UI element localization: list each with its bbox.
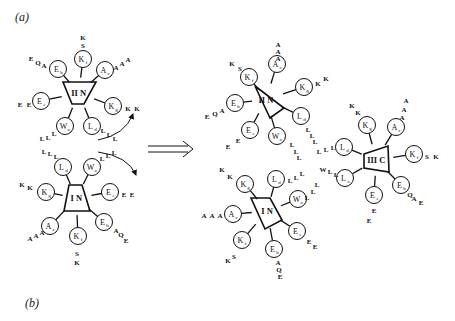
residue-label: K (74, 259, 80, 267)
residue-label: A (411, 195, 416, 203)
residue-label: K (219, 166, 225, 174)
svg-text:K: K (109, 102, 115, 111)
svg-text:E: E (397, 181, 402, 190)
residue-label: L (113, 135, 118, 143)
svg-text:E: E (54, 65, 59, 74)
svg-text:A: A (101, 66, 107, 75)
residue-label: L (40, 135, 45, 143)
subunit-node: Ld (293, 108, 310, 125)
residue-label: A (119, 60, 124, 68)
residue-label: K (19, 181, 25, 189)
residue-label: L (317, 148, 322, 156)
svg-text:A: A (46, 222, 52, 231)
subunit-node: La (337, 170, 354, 187)
svg-text:K: K (79, 55, 85, 64)
residue-label: A (217, 212, 222, 220)
subunit-node: Kf (406, 146, 423, 163)
complex-right-IN: KgKKLdLLLWaLLLAcAAAEeEEKfSKEbAQEI N (201, 166, 319, 281)
residue-label: L (54, 153, 59, 161)
complex-label: III C (367, 155, 385, 165)
svg-text:E: E (370, 191, 375, 200)
residue-label: E (419, 199, 424, 207)
subunit-node: Ee (33, 93, 50, 110)
residue-label: E (307, 238, 312, 246)
residue-label: S (238, 65, 242, 73)
double-arrow-icon (148, 141, 193, 157)
residue-label: Q (212, 110, 218, 118)
complex-label: I N (261, 206, 273, 216)
svg-text:E: E (293, 227, 298, 236)
residue-label: A (41, 62, 46, 70)
residue-label: L (334, 171, 339, 179)
svg-text:L: L (59, 163, 64, 172)
svg-text:K: K (238, 236, 244, 245)
residue-label: K (225, 257, 231, 265)
svg-text:K: K (245, 73, 251, 82)
residue-label: S (75, 250, 79, 258)
residue-label: E (236, 137, 241, 145)
residue-label: A (113, 64, 118, 72)
residue-label: L (328, 168, 333, 176)
residue-label: L (42, 148, 47, 156)
svg-text:E: E (106, 188, 111, 197)
subunit-node: Kf (241, 69, 258, 86)
residue-label: K (125, 105, 131, 113)
residue-label: E (372, 207, 377, 215)
residue-label: L (324, 146, 329, 154)
svg-text:E: E (100, 218, 105, 227)
residue-label: E (130, 191, 135, 199)
residue-label: E (205, 113, 210, 121)
subunit-node: Eb (227, 95, 244, 112)
residue-label: K (80, 34, 86, 42)
subunit-node: Kf (75, 51, 92, 68)
subunit-node: Kg (237, 176, 254, 193)
residue-label: E (27, 101, 32, 109)
svg-text:K: K (241, 180, 247, 189)
subunit-node: Kf (70, 228, 87, 245)
complex-label: I N (70, 193, 82, 203)
svg-text:K: K (363, 121, 369, 130)
residue-label: L (300, 170, 305, 178)
residue-label: L (48, 150, 53, 158)
residue-label: Q (35, 59, 41, 67)
residue-label: L (288, 177, 293, 185)
residue-label: E (124, 237, 129, 245)
subunit-node: Ld (84, 118, 101, 135)
residue-label: K (227, 173, 233, 181)
residue-label: A (275, 55, 280, 63)
svg-text:L: L (88, 122, 93, 131)
protein-complex-diagram: KfSKAcAAAEbAQEEeEEKgKKWaLLLLdLLLII NLdLL… (0, 0, 455, 321)
residue-label: E (226, 143, 231, 151)
residue-label: A (33, 232, 38, 240)
residue-label: L (107, 131, 112, 139)
complex-right-IIIC: KgKKAcAAALdLLLKfSKLaWLLEbQAEEeEEIII C (317, 97, 440, 225)
residue-label: S (425, 153, 429, 161)
subunit-node: Kf (234, 232, 251, 249)
complex-label: II N (259, 95, 275, 105)
residue-label: L (313, 138, 318, 146)
subunit-node: Ac (225, 206, 242, 223)
residue-label: A (403, 97, 408, 105)
subunit-node: Ee (242, 122, 259, 139)
residue-label: K (315, 80, 321, 88)
subunit-node: Ld (336, 139, 353, 156)
residue-label: L (100, 155, 105, 163)
svg-text:L: L (272, 175, 277, 184)
subunit-node: Ld (268, 171, 285, 188)
subunit-node: Ee (102, 184, 119, 201)
figure-stage: (a) (b) KfSKAcAAAEbAQEEeEEKgKKWaLLLLdLLL… (0, 0, 455, 321)
svg-text:K: K (410, 150, 416, 159)
residue-label: A (39, 229, 44, 237)
residue-label: L (101, 127, 106, 135)
svg-text:L: L (341, 174, 346, 183)
residue-label: L (52, 130, 57, 138)
subunit-node: Kg (359, 117, 376, 134)
residue-label: A (27, 235, 32, 243)
svg-text:K: K (300, 83, 306, 92)
residue-label: L (297, 154, 302, 162)
subunit-node: Ld (55, 159, 72, 176)
svg-text:E: E (246, 126, 251, 135)
residue-label: L (294, 174, 299, 182)
svg-text:L: L (297, 112, 302, 121)
residue-label: K (355, 109, 361, 117)
